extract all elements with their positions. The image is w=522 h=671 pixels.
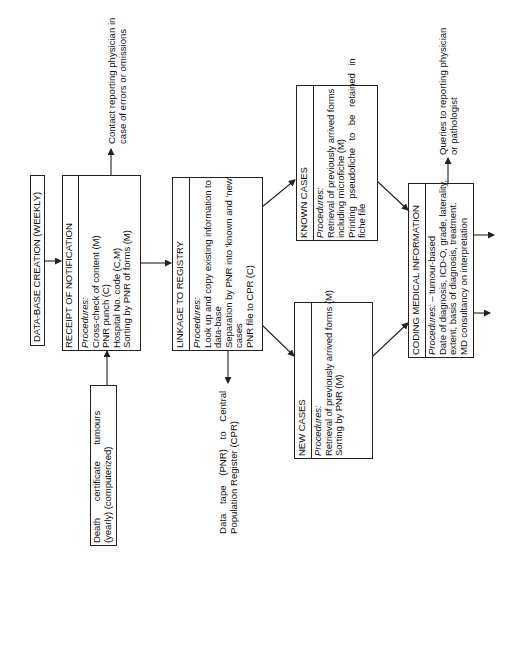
receipt-title: RECEIPT OF NOTIFICATION bbox=[64, 223, 75, 348]
known-cases-procedures-label: Procedures: bbox=[315, 58, 326, 238]
database-creation-title: DATA-BASE CREATION (WEEKLY) bbox=[32, 192, 43, 342]
annotation-line: Queries to reporting physician bbox=[437, 28, 448, 155]
receipt-of-notification-box: RECEIPT OF NOTIFICATION Procedures: Cros… bbox=[62, 175, 141, 351]
coding-medical-information-box: CODING MEDICAL INFORMATION Procedures: –… bbox=[408, 183, 474, 358]
linkage-procedures: Procedures: Look up and copy existing in… bbox=[192, 177, 256, 348]
new-cases-header-strip: NEW CASES bbox=[295, 303, 312, 458]
new-cases-box: NEW CASES Procedures: Retrieval of previ… bbox=[294, 302, 373, 459]
annotation-line: Data tape (PNR) to Central bbox=[217, 391, 228, 534]
death-certificate-text: Death certificate tumours (yearly) (comp… bbox=[92, 388, 113, 543]
known-cases-header-strip: KNOWN CASES bbox=[297, 86, 314, 240]
known-cases-box: KNOWN CASES Procedures: Retrieval of pre… bbox=[296, 85, 378, 241]
annotation-line: Contact reporting physician in bbox=[106, 18, 117, 144]
coding-procedures-suffix: – tumour-based bbox=[426, 236, 437, 304]
new-cases-title: NEW CASES bbox=[297, 399, 308, 456]
coding-title: CODING MEDICAL INFORMATION bbox=[411, 205, 422, 355]
linkage-header-strip: LINKAGE TO REGISTRY bbox=[173, 178, 190, 350]
annotation-line: Population Register (CPR) bbox=[228, 391, 239, 534]
receipt-header-strip: RECEIPT OF NOTIFICATION bbox=[63, 176, 79, 350]
linkage-to-registry-box: LINKAGE TO REGISTRY Procedures: Look up … bbox=[172, 177, 263, 351]
new-cases-item: Sorting by PNR (M) bbox=[334, 290, 345, 456]
annotation-line: case of errors or omissions bbox=[117, 18, 128, 144]
database-creation-box: DATA-BASE CREATION (WEEKLY) bbox=[30, 175, 45, 346]
new-cases-procedures-label: Procedures: bbox=[313, 290, 324, 456]
known-cases-procedures: Procedures: Retrieval of previously arri… bbox=[315, 58, 368, 238]
death-certificate-box: Death certificate tumours (yearly) (comp… bbox=[90, 385, 117, 546]
receipt-procedures-label: Procedures: bbox=[80, 230, 91, 348]
data-tape-annotation: Data tape (PNR) to Central Population Re… bbox=[217, 391, 239, 534]
receipt-procedures: Procedures: Cross-check of content (M) P… bbox=[80, 230, 133, 348]
coding-item: MD consultancy on interpretation bbox=[459, 180, 470, 355]
queries-annotation: Queries to reporting physician or pathol… bbox=[437, 28, 459, 155]
annotation-line: or pathologist bbox=[448, 28, 459, 155]
contact-physician-annotation: Contact reporting physician in case of e… bbox=[106, 18, 128, 144]
new-cases-procedures: Procedures: Retrieval of previously arri… bbox=[313, 290, 345, 456]
death-certificate-line-1: Death certificate tumours bbox=[92, 388, 103, 543]
known-cases-title: KNOWN CASES bbox=[299, 167, 310, 238]
linkage-item: PNR file to CPR (C) bbox=[245, 177, 256, 348]
coding-header-strip: CODING MEDICAL INFORMATION bbox=[409, 184, 426, 357]
receipt-item: Sorting by PNR of forms (M) bbox=[122, 230, 133, 348]
linkage-procedures-label: Procedures: bbox=[192, 177, 203, 348]
known-cases-item: fiche file bbox=[357, 58, 368, 238]
coding-procedures-line: Procedures: – tumour-based bbox=[427, 180, 438, 355]
death-certificate-line-2: (yearly) (computerized) bbox=[103, 388, 114, 543]
coding-procedures-label: Procedures: bbox=[426, 304, 437, 355]
linkage-title: LINKAGE TO REGISTRY bbox=[175, 241, 186, 348]
coding-procedures: Procedures: – tumour-based Date of diagn… bbox=[427, 180, 469, 355]
